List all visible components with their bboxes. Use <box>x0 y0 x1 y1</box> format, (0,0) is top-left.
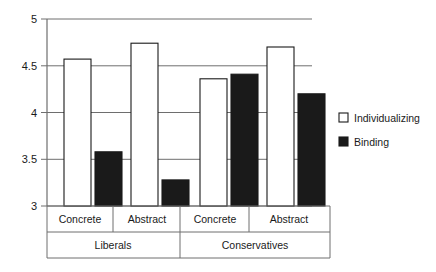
y-tick-label-4point5: 4.5 <box>22 60 37 72</box>
bar-liberals-abstract-binding <box>162 180 189 206</box>
bar-liberals-abstract-individualizing <box>131 43 158 206</box>
x-category-label-conservatives-abstract: Abstract <box>270 213 309 225</box>
x-group-label-conservatives: Conservatives <box>222 239 289 251</box>
legend-swatch-filled-square-icon <box>339 137 348 146</box>
bar-chart: 5 4.5 4 3.5 3 Concr <box>0 0 436 272</box>
legend-swatch-open-square-icon <box>339 113 348 122</box>
legend-label-individualizing: Individualizing <box>354 112 420 124</box>
bar-liberals-concrete-individualizing <box>64 59 91 206</box>
bar-conservatives-abstract-binding <box>298 94 325 206</box>
y-tick-label-3point5: 3.5 <box>22 153 37 165</box>
x-category-label-liberals-concrete: Concrete <box>59 213 102 225</box>
bar-conservatives-abstract-individualizing <box>267 47 294 206</box>
bar-conservatives-concrete-binding <box>231 74 258 206</box>
bar-liberals-concrete-binding <box>95 152 122 206</box>
x-group-label-liberals: Liberals <box>95 239 132 251</box>
legend-label-binding: Binding <box>354 136 389 148</box>
x-category-label-liberals-abstract: Abstract <box>128 213 167 225</box>
x-category-label-conservatives-concrete: Concrete <box>194 213 237 225</box>
y-tick-label-5: 5 <box>31 13 37 25</box>
legend-item-binding[interactable]: Binding <box>339 136 389 148</box>
y-tick-label-4: 4 <box>31 107 37 119</box>
bar-conservatives-concrete-individualizing <box>200 79 227 206</box>
chart-container: 5 4.5 4 3.5 3 Concr <box>0 0 436 272</box>
y-tick-label-3: 3 <box>31 200 37 212</box>
